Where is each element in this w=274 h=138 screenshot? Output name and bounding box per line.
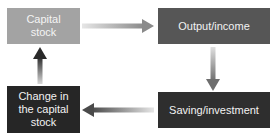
capital-stock-label-line1: Capital bbox=[26, 13, 60, 26]
output-income-label: Output/income bbox=[178, 20, 250, 33]
arrow-left-icon bbox=[82, 103, 154, 117]
capital-stock-node: Capital stock bbox=[7, 8, 80, 44]
change-label-line1: Change in bbox=[18, 90, 68, 103]
output-income-node: Output/income bbox=[158, 8, 270, 44]
change-label-line2: the capital bbox=[18, 103, 68, 116]
arrow-down-icon bbox=[206, 47, 220, 91]
change-capital-stock-node: Change in the capital stock bbox=[7, 86, 80, 133]
arrow-right-icon bbox=[82, 19, 154, 33]
change-label-line3: stock bbox=[18, 116, 68, 129]
saving-investment-node: Saving/investment bbox=[158, 92, 270, 128]
saving-investment-label: Saving/investment bbox=[169, 104, 259, 117]
arrow-up-icon bbox=[33, 47, 47, 84]
capital-stock-label-line2: stock bbox=[26, 26, 60, 39]
